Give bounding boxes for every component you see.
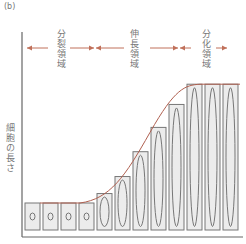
cell-wall (79, 203, 94, 230)
cell-wall (25, 203, 40, 230)
cell (223, 84, 238, 230)
cell (97, 194, 112, 230)
cell-wall (43, 203, 58, 230)
cell (61, 203, 76, 230)
cell (133, 152, 148, 230)
cell-wall (223, 84, 238, 230)
cell-length-diagram (0, 0, 246, 244)
cell-wall (205, 84, 220, 230)
cell-wall (61, 203, 76, 230)
cell-wall (151, 127, 166, 230)
cell-wall (187, 84, 202, 230)
cell (43, 203, 58, 230)
cell (169, 104, 184, 230)
arrowhead-left-icon (27, 46, 32, 51)
cell-wall (169, 104, 184, 230)
cell-wall (97, 194, 112, 230)
arrowhead-left-icon (180, 46, 185, 51)
cell-wall (133, 152, 148, 230)
cell (151, 127, 166, 230)
cell (79, 203, 94, 230)
cell (115, 177, 130, 230)
cell (25, 203, 40, 230)
arrowhead-right-icon (89, 46, 94, 51)
cell-wall (115, 177, 130, 230)
cell (187, 84, 202, 230)
arrowhead-right-icon (222, 46, 227, 51)
arrowhead-right-icon (173, 46, 178, 51)
cell (205, 84, 220, 230)
arrowhead-left-icon (96, 46, 101, 51)
